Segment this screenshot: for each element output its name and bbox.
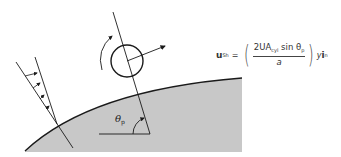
eq-equals: = xyxy=(232,51,239,60)
rotation-arrow xyxy=(100,36,112,70)
eq-num-sin: sin θ xyxy=(278,42,301,52)
eq-numerator: 2UAcyl sin θp xyxy=(253,42,306,57)
eq-num-theta-subscript: p xyxy=(301,47,304,53)
curved-surface xyxy=(25,78,242,152)
velocity-profile xyxy=(16,57,73,148)
eq-unit-subscript: n xyxy=(325,52,328,58)
eq-fraction: 2UAcyl sin θp a xyxy=(253,42,306,68)
eq-lhs-subscript: Sh xyxy=(222,52,228,58)
angle-label: θp xyxy=(115,113,125,125)
shear-lift-diagram: θp uSh = ( 2UAcyl sin θp a ) yin xyxy=(0,0,341,157)
eq-denominator: a xyxy=(277,57,282,68)
shear-lift-equation: uSh = ( 2UAcyl sin θp a ) yin xyxy=(216,38,328,72)
eq-num-prefix: 2UA xyxy=(254,42,271,52)
diagram-canvas xyxy=(0,0,341,157)
lift-velocity-arrow xyxy=(127,46,165,61)
theta-subscript: p xyxy=(121,118,125,125)
eq-close-paren: ) xyxy=(308,43,314,67)
eq-open-paren: ( xyxy=(244,43,250,67)
